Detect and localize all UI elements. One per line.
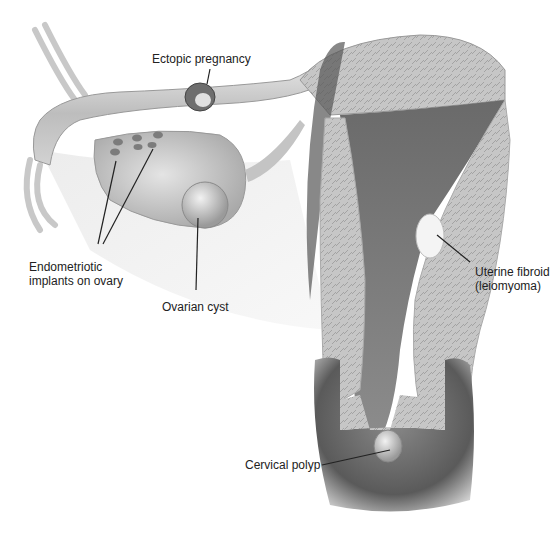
label-cervical-polyp: Cervical polyp — [245, 458, 320, 472]
label-ovarian-cyst: Ovarian cyst — [162, 300, 229, 314]
label-endometriotic-line2: implants on ovary — [29, 274, 123, 288]
label-ectopic-pregnancy: Ectopic pregnancy — [152, 52, 251, 66]
label-endometriotic-line1: Endometriotic — [29, 260, 102, 274]
label-uterine-fibroid-line1: Uterine fibroid — [475, 265, 550, 279]
uterine-fibroid-illustration — [416, 214, 444, 258]
label-uterine-fibroid-line2: (leiomyoma) — [475, 279, 541, 293]
cervical-polyp-illustration — [374, 430, 402, 462]
ectopic-leader-line — [207, 69, 210, 84]
ectopic-pregnancy-illustration — [185, 83, 215, 111]
diagram-canvas: Ectopic pregnancy Endometriotic implants… — [0, 0, 559, 536]
ovarian-cyst-illustration — [182, 182, 228, 228]
